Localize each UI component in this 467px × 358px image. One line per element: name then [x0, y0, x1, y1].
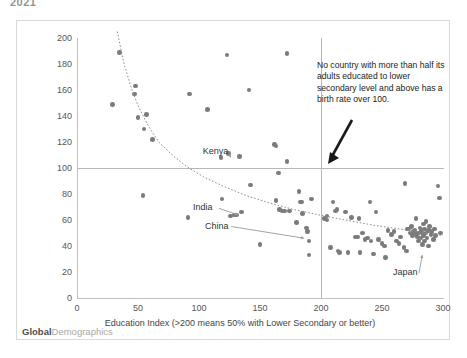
scatter-point	[132, 92, 137, 97]
scatter-point	[187, 92, 192, 97]
y-axis-tick: 80	[44, 190, 72, 199]
x-axis-tick: 200	[308, 304, 334, 313]
scatter-point	[424, 219, 429, 224]
y-axis-tick: 200	[44, 34, 72, 43]
scatter-point	[438, 231, 443, 236]
scatter-point	[287, 209, 292, 214]
scatter-point	[117, 50, 122, 55]
y-axis-tick: 0	[44, 294, 72, 303]
scatter-point	[335, 207, 340, 212]
scatter-point	[144, 112, 149, 117]
scatter-point	[297, 189, 302, 194]
scatter-point	[300, 211, 305, 216]
scatter-point	[307, 239, 312, 244]
country-label-china: China	[205, 221, 229, 231]
country-label-india: India	[193, 202, 213, 212]
scatter-point	[328, 245, 333, 250]
scatter-point	[294, 220, 299, 225]
scatter-point	[186, 215, 191, 220]
country-label-kenya: Kenya	[203, 146, 229, 156]
scatter-point	[420, 242, 425, 247]
scatter-point	[237, 154, 242, 159]
x-axis-title: Education Index (>200 means 50% with Low…	[60, 318, 420, 328]
y-axis-tick: 40	[44, 242, 72, 251]
y-axis-tick: 160	[44, 86, 72, 95]
scatter-point	[398, 235, 403, 240]
x-axis-tick: 150	[247, 304, 273, 313]
scatter-point	[382, 244, 387, 249]
scatter-point	[337, 250, 342, 255]
brand-bold: Global	[22, 326, 52, 337]
reference-line-birthrate-100	[78, 168, 444, 169]
x-axis-tick: 100	[186, 304, 212, 313]
scatter-point	[349, 215, 354, 220]
scatter-point	[150, 137, 155, 142]
scatter-point	[437, 196, 442, 201]
scatter-point	[299, 200, 304, 205]
scatter-point	[282, 209, 287, 214]
scatter-point	[431, 237, 436, 242]
y-axis-tick: 20	[44, 268, 72, 277]
y-axis-tick: 60	[44, 216, 72, 225]
scatter-point	[248, 183, 253, 188]
x-axis-line	[77, 298, 444, 299]
brand-light: Demographics	[52, 326, 113, 337]
brand-watermark: GlobalDemographics	[22, 326, 113, 337]
y-axis-tick: 140	[44, 112, 72, 121]
scatter-point	[383, 255, 388, 260]
scatter-point	[136, 115, 141, 120]
scatter-point	[397, 241, 402, 246]
scatter-point	[360, 231, 365, 236]
scatter-point	[205, 107, 210, 112]
x-axis-tick: 250	[369, 304, 395, 313]
country-label-japan: Japan	[393, 267, 418, 277]
scatter-point	[309, 197, 314, 202]
scatter-point	[432, 227, 437, 232]
scatter-point	[371, 252, 376, 257]
x-axis-tick: 300	[430, 304, 456, 313]
scatter-point	[285, 159, 290, 164]
annotation-callout: No country with more than half its adult…	[317, 60, 445, 106]
scatter-point	[355, 235, 360, 240]
y-axis-tick: 120	[44, 138, 72, 147]
x-axis-tick: 50	[125, 304, 151, 313]
scatter-point	[357, 216, 362, 221]
scatter-point	[141, 193, 146, 198]
y-axis-tick: 100	[44, 164, 72, 173]
scatter-point	[305, 229, 310, 234]
scatter-point	[110, 102, 115, 107]
scatter-point	[368, 200, 373, 205]
scatter-point	[346, 250, 351, 255]
scatter-point	[358, 250, 363, 255]
scatter-point	[285, 51, 290, 56]
y-axis-tick: 180	[44, 60, 72, 69]
scatter-point	[276, 171, 281, 176]
cropped-title-text: 2021	[10, 0, 36, 6]
x-axis-tick: 0	[64, 304, 90, 313]
scatter-point	[426, 244, 431, 249]
scatter-point	[274, 198, 279, 203]
